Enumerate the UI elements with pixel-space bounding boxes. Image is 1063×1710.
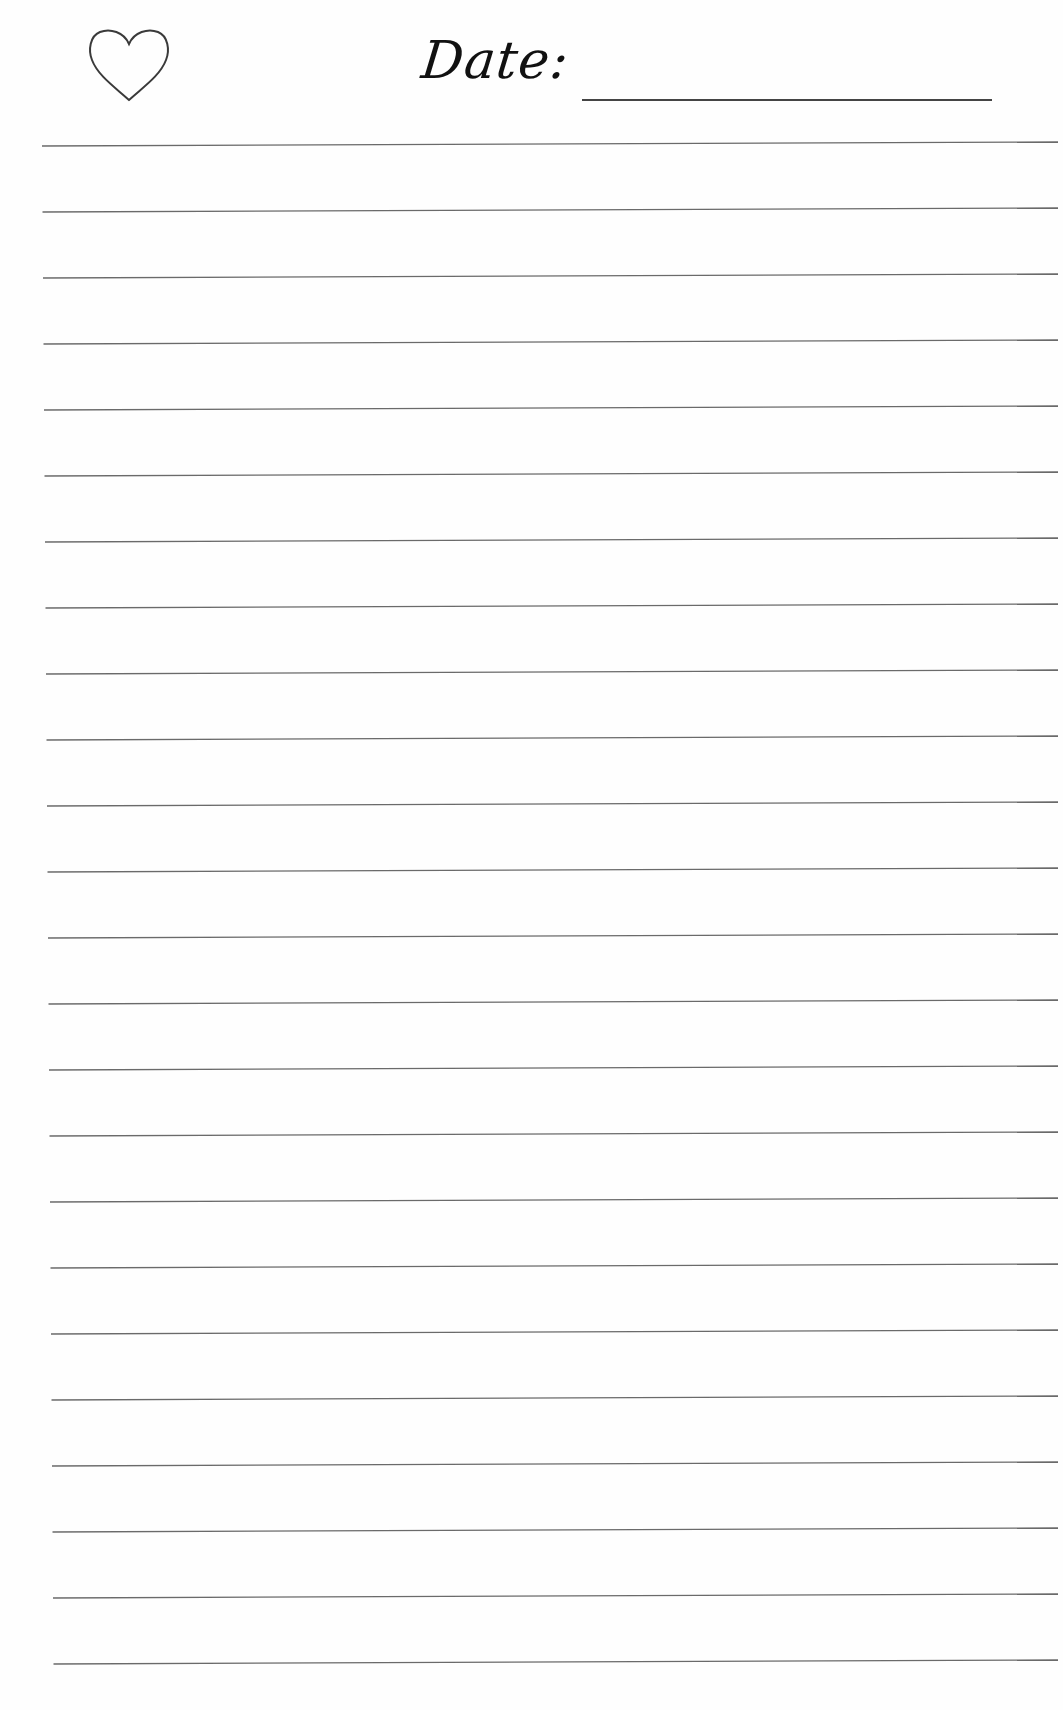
writing-line (42, 142, 1058, 146)
ruled-lines (0, 0, 1063, 1710)
writing-line (44, 406, 1058, 410)
writing-line (46, 604, 1059, 608)
writing-line (46, 670, 1058, 674)
writing-line (53, 1594, 1058, 1598)
writing-line (44, 340, 1059, 344)
writing-line (50, 1198, 1058, 1202)
writing-line (54, 1660, 1059, 1664)
writing-line (52, 1462, 1058, 1466)
writing-line (49, 1066, 1058, 1070)
writing-line (47, 736, 1059, 740)
writing-line (49, 1000, 1059, 1004)
writing-line (43, 274, 1058, 278)
writing-line (50, 1132, 1059, 1136)
writing-line (53, 1528, 1059, 1532)
writing-line (48, 934, 1058, 938)
writing-line (51, 1264, 1059, 1268)
writing-line (52, 1396, 1059, 1400)
writing-line (45, 472, 1059, 476)
writing-line (48, 868, 1059, 872)
writing-line (51, 1330, 1058, 1334)
writing-line (47, 802, 1058, 806)
writing-line (43, 208, 1059, 212)
writing-line (45, 538, 1058, 542)
journal-page: Date: (0, 0, 1063, 1710)
